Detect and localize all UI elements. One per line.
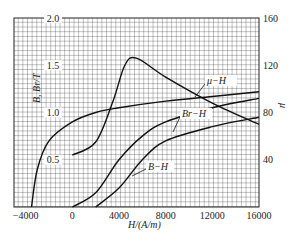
y-right-tick-label: 160 [263, 13, 278, 24]
x-tick-label: 0 [70, 210, 75, 221]
y-right-tick-label: 80 [263, 107, 273, 118]
y-right-ticks: 4080120160 [263, 13, 278, 166]
x-tick-label: 12000 [200, 210, 225, 221]
y-left-tick-label: 1.0 [47, 107, 60, 118]
y-right-tick-label: 40 [263, 154, 273, 165]
b-h-label: B−H [148, 161, 169, 172]
y-right-tick-label: 120 [263, 60, 278, 71]
x-tick-label: −4000 [13, 210, 39, 221]
br-h-label: Br−H [182, 108, 207, 119]
y-left-tick-label: 0.5 [47, 154, 60, 165]
y-right-label: μ [278, 102, 289, 108]
x-tick-label: 16000 [247, 210, 272, 221]
x-axis-label: H/(A/m) [127, 219, 161, 231]
mu-h-label: μ−H [206, 75, 227, 86]
chart: −40000400080001200016000 0.51.01.52.0 40… [0, 0, 294, 243]
y-left-tick-label: 2.0 [47, 13, 60, 24]
y-left-label: B, Br/T [31, 72, 42, 103]
y-left-tick-label: 1.5 [47, 60, 60, 71]
x-tick-label: 4000 [109, 210, 129, 221]
